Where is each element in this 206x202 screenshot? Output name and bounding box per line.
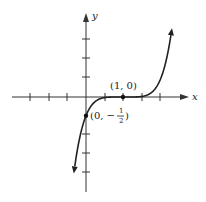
point-2-label-num: 1 (119, 107, 123, 115)
curve-arrow-bottom-icon (72, 166, 78, 173)
point-1-label: (1, 0) (110, 80, 137, 91)
curve-arrow-top-icon (168, 28, 174, 35)
point-0-neg-half (84, 114, 88, 118)
point-2-label-suffix: ) (125, 110, 129, 121)
y-axis-arrow-icon (83, 13, 89, 22)
point-2-label-prefix: (0, − (90, 110, 115, 121)
x-axis-arrow-icon (180, 94, 189, 100)
chart-canvas: y x (1, 0) (0, − 1 2 ) (0, 0, 206, 202)
point-1-0 (121, 95, 125, 99)
y-axis-label: y (91, 10, 98, 21)
point-2-label-den: 2 (119, 117, 123, 125)
x-axis-label: x (192, 91, 198, 102)
